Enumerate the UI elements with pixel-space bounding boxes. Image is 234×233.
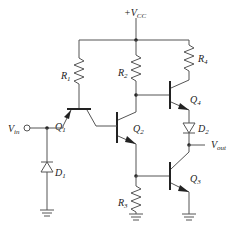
circuit-diagram: +VCC R1 Q1 Vin D1 (0, 0, 234, 233)
ground-d1 (40, 210, 54, 216)
diode-d2: D2 (183, 123, 209, 145)
r4-label: R4 (197, 53, 208, 66)
ground-q3 (182, 214, 196, 220)
r3-label: R3 (117, 197, 128, 210)
resistor-r1: R1 (60, 40, 84, 108)
vin-label: Vin (8, 123, 20, 136)
ground-r3 (129, 214, 143, 220)
vout-node: Vout (187, 139, 227, 152)
vcc-label: +VCC (124, 7, 147, 20)
q2-label: Q2 (133, 123, 144, 136)
vcc-supply: +VCC (79, 7, 189, 42)
r1-label: R1 (60, 70, 71, 83)
transistor-q4: Q4 (136, 80, 201, 123)
resistor-r3: R3 (117, 176, 141, 214)
resistor-r2: R2 (117, 40, 141, 112)
resistor-r4: R4 (184, 40, 208, 80)
diode-d1: D1 (41, 128, 66, 210)
r2-label: R2 (117, 67, 128, 80)
d2-label: D2 (197, 123, 209, 136)
q3-label: Q3 (190, 173, 201, 186)
schematic-svg: +VCC R1 Q1 Vin D1 (0, 0, 234, 233)
vout-label: Vout (211, 139, 227, 152)
vin-terminal-circle (24, 125, 30, 131)
d1-label: D1 (54, 167, 66, 180)
transistor-q2: Q2 (114, 112, 144, 178)
transistor-q1: Q1 (55, 109, 114, 134)
transistor-q3: Q3 (136, 145, 201, 214)
q4-label: Q4 (190, 94, 201, 107)
